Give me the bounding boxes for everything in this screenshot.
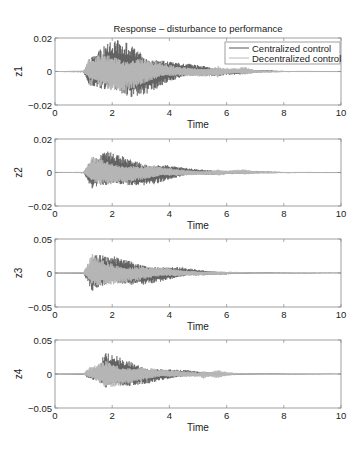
x-tick-label: 2 bbox=[110, 208, 115, 219]
x-tick-label: 0 bbox=[52, 208, 57, 219]
x-tick-label: 8 bbox=[281, 410, 286, 421]
y-tick-label: 0.05 bbox=[34, 234, 53, 245]
x-tick-label: 6 bbox=[224, 410, 229, 421]
x-tick-label: 0 bbox=[52, 410, 57, 421]
x-tick-label: 2 bbox=[110, 309, 115, 320]
x-tick-label: 6 bbox=[224, 309, 229, 320]
x-tick-label: 6 bbox=[224, 208, 229, 219]
x-tick-label: 8 bbox=[281, 208, 286, 219]
y-axis-label: z3 bbox=[13, 267, 24, 278]
y-axis-label: z1 bbox=[13, 66, 24, 77]
x-tick-label: 10 bbox=[336, 309, 347, 320]
x-tick-label: 10 bbox=[336, 208, 347, 219]
x-tick-label: 8 bbox=[281, 309, 286, 320]
y-tick-label: 0 bbox=[47, 66, 52, 77]
y-tick-label: −0.02 bbox=[28, 201, 52, 212]
x-axis-label: Time bbox=[187, 422, 209, 433]
x-tick-label: 10 bbox=[336, 410, 347, 421]
y-tick-label: −0.02 bbox=[28, 100, 52, 111]
y-tick-label: 0.05 bbox=[34, 335, 53, 346]
x-tick-label: 10 bbox=[336, 107, 347, 118]
x-tick-label: 0 bbox=[52, 309, 57, 320]
chart-title: Response – disturbance to performance bbox=[114, 23, 283, 34]
x-tick-label: 6 bbox=[224, 107, 229, 118]
legend: Centralized controlDecentralized control bbox=[225, 42, 341, 64]
y-axis-label: z4 bbox=[13, 368, 24, 379]
figure: Response – disturbance to performance 02… bbox=[0, 0, 363, 449]
y-tick-label: −0.05 bbox=[28, 403, 52, 414]
x-axis-label: Time bbox=[187, 220, 209, 231]
legend-label-decentralized: Decentralized control bbox=[252, 53, 341, 64]
y-tick-label: 0 bbox=[47, 268, 52, 279]
x-tick-label: 0 bbox=[52, 107, 57, 118]
x-tick-label: 4 bbox=[167, 208, 172, 219]
y-tick-label: 0 bbox=[47, 167, 52, 178]
y-tick-label: 0.02 bbox=[34, 134, 53, 145]
y-tick-label: −0.05 bbox=[28, 302, 52, 313]
x-axis-label: Time bbox=[187, 321, 209, 332]
y-axis-label: z2 bbox=[13, 167, 24, 178]
x-tick-label: 4 bbox=[167, 309, 172, 320]
x-tick-label: 2 bbox=[110, 410, 115, 421]
y-tick-label: 0.02 bbox=[34, 33, 53, 44]
x-tick-label: 2 bbox=[110, 107, 115, 118]
x-tick-label: 4 bbox=[167, 107, 172, 118]
x-tick-label: 4 bbox=[167, 410, 172, 421]
x-axis-label: Time bbox=[187, 119, 209, 130]
x-tick-label: 8 bbox=[281, 107, 286, 118]
y-tick-label: 0 bbox=[47, 369, 52, 380]
